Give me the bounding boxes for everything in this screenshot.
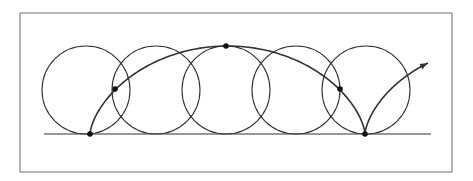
rolling-circle-5 [322, 46, 410, 134]
point-quarter [112, 86, 118, 92]
point-three-quarter [337, 86, 343, 92]
rolling-circle-4 [252, 46, 340, 134]
point-apex [223, 43, 229, 49]
rolling-circle-2 [112, 46, 200, 134]
point-start-cusp [87, 131, 93, 137]
next-arch-curve [365, 63, 428, 134]
rolling-circles [42, 46, 410, 134]
cycloid-diagram [0, 0, 473, 181]
point-end-cusp [362, 131, 368, 137]
cycloid-curve [90, 46, 365, 134]
arrowhead-icon [420, 63, 429, 69]
rolling-circle-3 [182, 46, 270, 134]
